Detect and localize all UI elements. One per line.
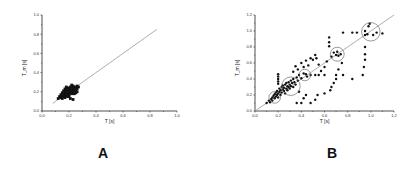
y-tick-label: 0.2 (33, 89, 39, 94)
x-axis-label: T [s] (320, 118, 330, 124)
figure-canvas: 0.00.20.40.60.81.00.00.20.40.60.81.0T [s… (0, 0, 420, 173)
y-tick-label: 0.6 (33, 51, 39, 56)
panel-label-a: A (98, 145, 108, 161)
data-points (57, 84, 80, 101)
y-tick-label: 0.4 (33, 70, 39, 75)
highlight-circle (299, 69, 311, 81)
scatter-chart-a: 0.00.20.40.60.81.00.00.20.40.60.81.0T [s… (21, 12, 181, 124)
y-tick-label: 0.4 (246, 76, 252, 81)
x-tick-label: 1.0 (174, 113, 180, 118)
x-tick-label: 0.2 (275, 113, 281, 118)
axes: 0.00.20.40.60.81.00.00.20.40.60.81.0T [s… (21, 12, 181, 124)
x-tick-label: 0.4 (299, 113, 305, 118)
y-tick-label: 0.0 (246, 108, 252, 113)
y-tick-label: 0.8 (33, 32, 39, 37)
y-axis-label: T_m [s] (21, 59, 27, 76)
x-tick-label: 0.6 (120, 113, 126, 118)
y-tick-label: 0.0 (33, 108, 39, 113)
y-axis-label: T_m [s] (234, 59, 240, 76)
panel-label-b: B (327, 145, 337, 161)
x-axis-label: T [s] (105, 118, 115, 124)
x-tick-label: 1.2 (391, 113, 397, 118)
x-tick-label: 0.4 (93, 113, 99, 118)
y-tick-label: 1.0 (246, 28, 252, 33)
x-tick-label: 0.0 (39, 113, 45, 118)
x-tick-label: 0.8 (345, 113, 351, 118)
y-tick-label: 0.8 (246, 44, 252, 49)
x-tick-label: 0.2 (66, 113, 72, 118)
x-tick-label: 0.0 (252, 113, 258, 118)
y-tick-label: 1.2 (246, 12, 252, 17)
y-tick-label: 1.0 (33, 12, 39, 17)
x-tick-label: 1.0 (368, 113, 374, 118)
scatter-chart-b: 0.00.20.40.60.81.01.20.00.20.40.60.81.01… (234, 12, 398, 124)
x-tick-label: 0.8 (147, 113, 153, 118)
y-tick-label: 0.2 (246, 92, 252, 97)
y-tick-label: 0.6 (246, 60, 252, 65)
